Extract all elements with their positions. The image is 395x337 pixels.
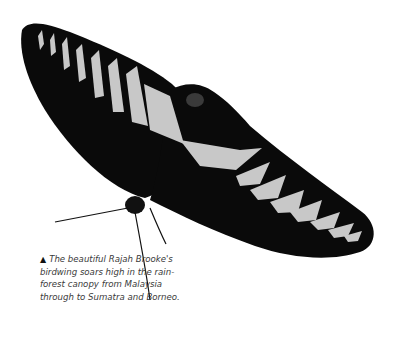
figure-caption: ▲The beautiful Rajah Brooke's birdwing s… <box>40 253 180 303</box>
caption-text: The beautiful Rajah Brooke's birdwing so… <box>40 254 180 302</box>
caption-marker-icon: ▲ <box>40 255 46 264</box>
butterfly-head <box>125 196 145 214</box>
butterfly-thorax <box>186 93 204 107</box>
